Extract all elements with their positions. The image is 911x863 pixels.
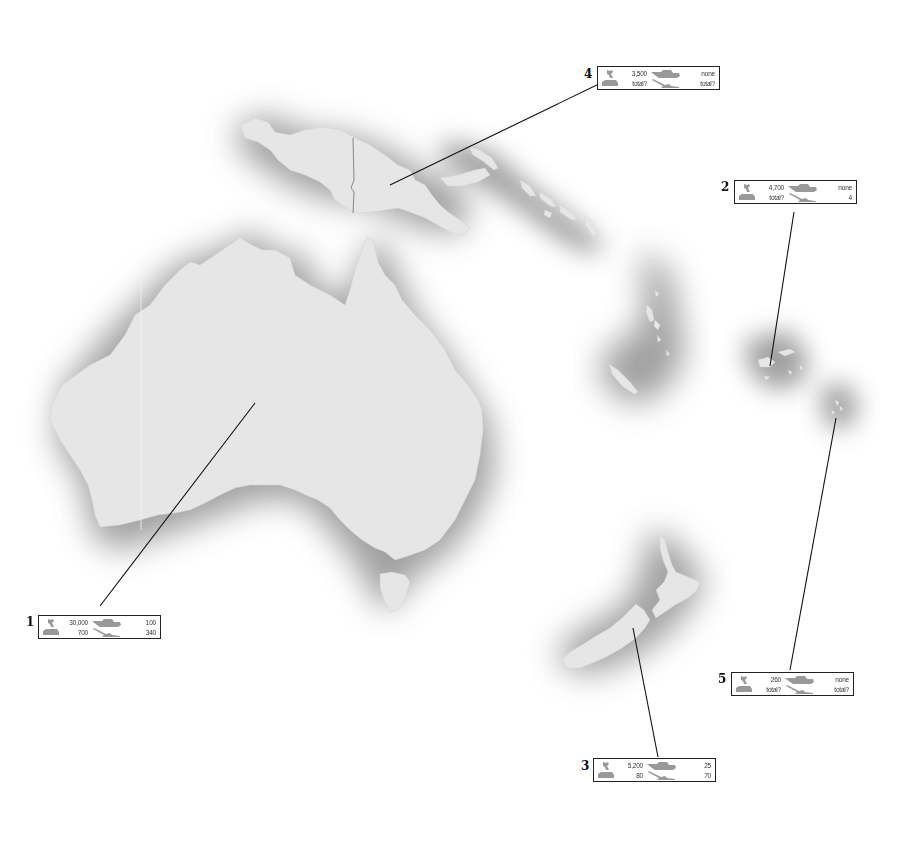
box-number: 5 [718, 673, 726, 685]
troops-value: 3,500 [607, 69, 647, 78]
artillery-value: total? [685, 79, 715, 88]
artillery-value: 4 [822, 193, 852, 202]
box-number: 3 [581, 760, 589, 772]
tanks-value: 100 [126, 618, 156, 627]
apcs-value: total? [741, 685, 781, 694]
country-stats-box[interactable]: 4,700 none total? 4 [734, 180, 857, 204]
artillery-gun-icon [92, 628, 122, 638]
artillery-gun-icon [788, 193, 818, 203]
country-stats-box[interactable]: 30,000 100 700 340 [38, 615, 161, 639]
australia-landmass [50, 237, 483, 560]
tanks-value: none [822, 183, 852, 192]
artillery-gun-icon [647, 771, 677, 781]
tanks-value: none [685, 69, 715, 78]
artillery-value: 340 [126, 628, 156, 637]
country-stats-box[interactable]: 5,200 25 80 70 [593, 758, 716, 782]
oceania-map [0, 0, 911, 863]
artillery-value: 70 [681, 771, 711, 780]
tanks-value: none [819, 675, 849, 684]
apcs-value: total? [607, 79, 647, 88]
country-stats-box[interactable]: 260 none total? total? [731, 672, 854, 696]
troops-value: 4,700 [744, 183, 784, 192]
apcs-value: 80 [603, 771, 643, 780]
artillery-value: total? [819, 685, 849, 694]
artillery-gun-icon [785, 685, 815, 695]
troops-value: 260 [741, 675, 781, 684]
artillery-gun-icon [651, 79, 681, 89]
box-number: 4 [584, 68, 592, 80]
apcs-value: 700 [48, 628, 88, 637]
leader-line-5 [790, 418, 836, 670]
tanks-value: 25 [681, 761, 711, 770]
country-stats-box[interactable]: 3,500 none total? total? [597, 66, 720, 90]
troops-value: 30,000 [48, 618, 88, 627]
apcs-value: total? [744, 193, 784, 202]
troops-value: 5,200 [603, 761, 643, 770]
box-number: 2 [721, 181, 729, 193]
box-number: 1 [26, 616, 34, 628]
